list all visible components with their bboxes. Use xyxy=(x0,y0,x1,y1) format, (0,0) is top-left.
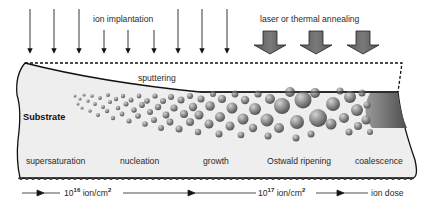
diagram-graphics xyxy=(0,0,432,210)
coalescence-layer xyxy=(365,93,407,128)
stage-label-ostwald-ripening: Ostwald ripening xyxy=(267,157,331,166)
ion-implantation-diagram: ion implantation laser or thermal anneal… xyxy=(0,0,432,210)
ion-implantation-label: ion implantation xyxy=(93,15,153,24)
dose-mark-1e16: 1016 ion/cm2 xyxy=(64,189,111,198)
stage-label-supersaturation: supersaturation xyxy=(26,157,85,166)
dose-mark-1e17: 1017 ion/cm2 xyxy=(258,189,305,198)
substrate-wavy-bottom xyxy=(18,178,414,180)
substrate-label: Substrate xyxy=(23,113,65,122)
stage-label-coalescence: coalescence xyxy=(355,157,403,166)
ion-dose-label: ion dose xyxy=(371,189,404,198)
stage-label-nucleation: nucleation xyxy=(120,157,159,166)
annealing-label: laser or thermal annealing xyxy=(260,15,359,24)
sputtering-label: sputtering xyxy=(138,74,176,83)
stage-label-growth: growth xyxy=(203,157,229,166)
annealing-arrows xyxy=(254,31,379,54)
